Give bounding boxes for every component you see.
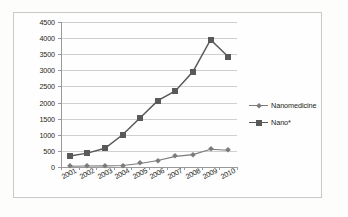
chart-legend: Nanomedicine Nano* bbox=[249, 97, 319, 131]
chart-figure: 050010001500200025003000350040004500 200… bbox=[0, 0, 348, 217]
legend-item-nanomedicine: Nanomedicine bbox=[249, 97, 319, 114]
legend-marker-diamond-icon bbox=[249, 101, 268, 110]
legend-item-nano: Nano* bbox=[249, 114, 319, 131]
legend-label-nano: Nano* bbox=[271, 118, 291, 127]
series-line bbox=[70, 40, 228, 156]
legend-marker-square-icon bbox=[249, 118, 268, 127]
legend-label-nanomedicine: Nanomedicine bbox=[271, 101, 316, 110]
